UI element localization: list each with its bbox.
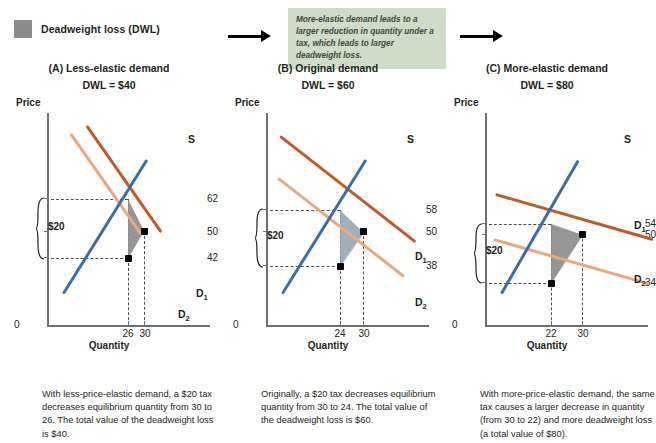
legend-label: Deadweight loss (DWL) [41,23,160,35]
y-axis-title: Price [16,97,40,108]
panel-a-dwl: DWL = $40 [0,79,218,91]
annotation-text: More-elastic demand leads to a larger re… [296,14,438,62]
x-tick-mark [551,321,552,325]
demand-2-label: D2 [634,273,646,288]
x-tick-30: 30 [134,328,156,339]
right-arrow-icon [228,30,271,42]
x-tick-mark [582,321,583,325]
x-tick-30: 30 [572,328,594,339]
origin-label: 0 [14,319,20,330]
legend: Deadweight loss (DWL) [14,20,160,38]
x-axis [485,325,648,327]
panel-b-dwl: DWL = $60 [219,79,437,91]
equilibrium-dot-taxed [125,255,132,262]
supply-label: S [624,133,631,145]
demand-1-label: D1 [634,219,646,234]
supply-label: S [407,133,414,145]
y-tick-50: 50 [415,226,437,237]
panel-a-plot: Price 0 Quantity 62 50 42 S D1 D2 $20 [0,97,218,359]
tax-brace [474,223,484,284]
x-tick-22: 22 [540,328,562,339]
y-tick-42: 42 [196,252,218,263]
x-tick-mark [144,321,145,325]
panel-b: (B) Original demand DWL = $60 Price 0 Qu… [219,62,437,359]
demand-1-label: D1 [196,287,208,302]
y-axis-title: Price [235,97,259,108]
y-tick-62: 62 [196,193,218,204]
y-tick-58: 58 [415,204,437,215]
x-axis-title: Quantity [0,340,218,351]
x-axis [47,325,210,327]
y-axis [485,113,487,326]
panel-b-title: (B) Original demand [219,62,437,74]
caption-b: Originally, a $20 tax decreases equilibr… [261,388,441,428]
panel-a: (A) Less-elastic demand DWL = $40 Price … [0,62,218,359]
tax-amount-label: $20 [267,230,284,241]
equilibrium-dot-original [579,231,586,238]
dwl-swatch-icon [14,20,32,38]
x-axis [266,325,429,327]
x-axis-title: Quantity [438,340,656,351]
panel-c-dwl: DWL = $80 [438,79,656,91]
x-tick-mark [363,321,364,325]
demand-1-label: D1 [415,250,427,265]
panel-c: (C) More-elastic demand DWL = $80 Price … [438,62,656,359]
x-axis-title: Quantity [219,340,437,351]
equilibrium-dot-taxed [337,263,344,270]
panel-c-title: (C) More-elastic demand [438,62,656,74]
demand-1-curve [85,125,162,233]
panel-c-plot: Price 0 Quantity 54 50 34 S D1 D2 $20 [438,97,656,359]
y-axis [47,113,49,326]
tax-brace [36,197,46,260]
equilibrium-dot-original [360,228,367,235]
y-tick-50: 50 [196,226,218,237]
panel-b-plot: Price 0 Quantity 58 50 38 S D1 D2 $20 [219,97,437,359]
panel-a-title: (A) Less-elastic demand [0,62,218,74]
dash-line-34 [489,283,551,284]
origin-label: 0 [233,319,239,330]
x-tick-24: 24 [329,328,351,339]
tax-amount-label: $20 [486,245,503,256]
demand-2-label: D2 [178,308,190,323]
x-tick-30: 30 [353,328,375,339]
dash-line-38 [270,266,340,267]
caption-a: With less-price-elastic demand, a $20 ta… [42,388,222,441]
y-axis-title: Price [454,97,478,108]
equilibrium-dot-original [141,228,148,235]
tax-amount-label: $20 [48,221,65,232]
y-axis [266,113,268,326]
caption-c: With more-price-elastic demand, the same… [480,388,656,441]
origin-label: 0 [452,319,458,330]
equilibrium-dot-taxed [548,280,555,287]
dash-line-58 [270,210,340,211]
tax-brace [255,208,265,268]
annotation-box: More-elastic demand leads to a larger re… [288,8,446,69]
supply-label: S [188,133,195,145]
demand-2-label: D2 [415,296,427,311]
x-tick-mark [128,321,129,325]
right-arrow-icon [460,30,503,42]
dash-line-42 [51,258,128,259]
x-tick-mark [340,321,341,325]
